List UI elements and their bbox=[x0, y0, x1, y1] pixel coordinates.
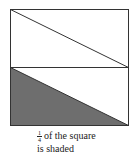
caption-line-1: 1 4 of the square bbox=[37, 130, 96, 143]
fraction: 1 4 bbox=[37, 130, 42, 143]
fraction-numerator: 1 bbox=[37, 130, 42, 137]
caption-line-2: is shaded bbox=[37, 143, 96, 155]
caption: 1 4 of the square is shaded bbox=[37, 130, 96, 155]
caption-text-1: of the square bbox=[44, 130, 96, 141]
top-diagonal bbox=[11, 10, 129, 68]
square-diagram bbox=[0, 0, 138, 130]
